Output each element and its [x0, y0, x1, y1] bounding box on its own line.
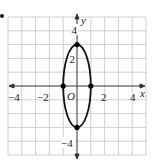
x-axis-label: x: [139, 87, 145, 99]
x-axis-left-arrow-icon: [9, 84, 14, 88]
y-axis-down-arrow-icon: [75, 154, 79, 159]
y-axis-label: y: [80, 14, 86, 26]
y-tick-neg4: −4: [61, 137, 73, 149]
list-bullet: [0, 14, 4, 18]
origin-label: O: [67, 90, 75, 102]
y-tick-4: 4: [72, 24, 78, 36]
point-1-0: [88, 83, 93, 88]
axes: [9, 14, 145, 159]
ellipse-graph: 4 2 −4 −4 −2 2 4 O y x: [0, 0, 153, 167]
x-tick-4: 4: [130, 91, 136, 103]
x-tick-2: 2: [101, 91, 107, 103]
x-tick-neg2: −2: [37, 91, 49, 103]
point-0-neg3: [74, 125, 79, 130]
y-axis-up-arrow-icon: [75, 14, 79, 19]
x-tick-neg4: −4: [8, 91, 20, 103]
point-neg1-0: [61, 83, 66, 88]
coordinate-plane: 4 2 −4 −4 −2 2 4 O y x: [0, 0, 153, 167]
y-tick-2: 2: [70, 53, 76, 65]
point-0-3: [74, 42, 79, 47]
